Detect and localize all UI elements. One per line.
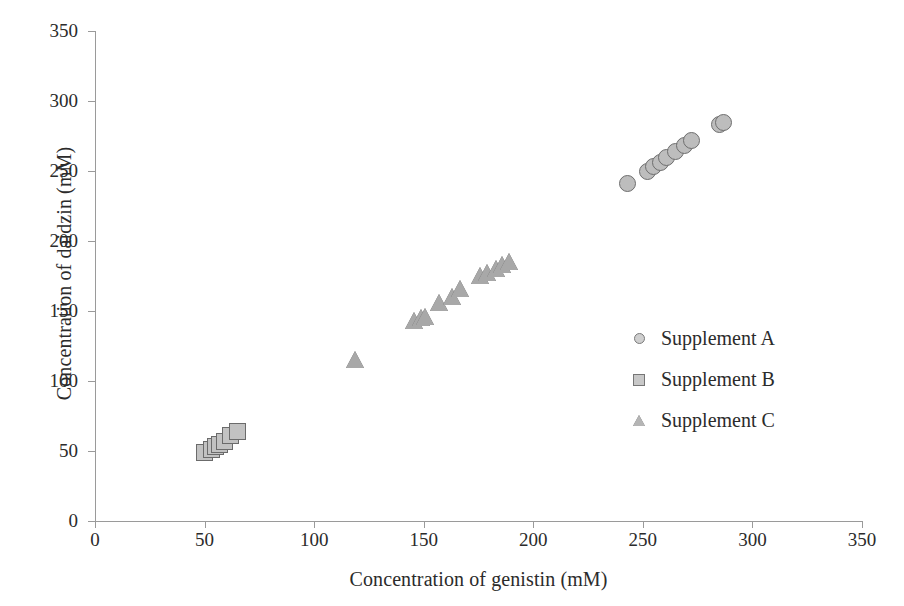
- y-tick: [88, 101, 95, 102]
- data-point-triangle[interactable]: [346, 351, 364, 368]
- y-tick: [88, 381, 95, 382]
- x-tick: [752, 521, 753, 528]
- x-tick-label: 350: [822, 530, 902, 549]
- y-tick-label: 350: [0, 21, 78, 40]
- y-tick-label: 50: [0, 441, 78, 460]
- x-tick: [643, 521, 644, 528]
- x-tick: [533, 521, 534, 528]
- x-tick-label: 50: [165, 530, 245, 549]
- data-point-square[interactable]: [229, 423, 246, 440]
- legend-label: Supplement B: [661, 368, 775, 391]
- legend-item-supplement-b[interactable]: Supplement B: [628, 359, 775, 400]
- chart-legend: Supplement A Supplement B Supplement C: [628, 318, 775, 441]
- x-tick: [862, 521, 863, 528]
- scatter-chart-figure: Concentration of daidzin (mM) 0501001502…: [0, 0, 904, 606]
- y-tick-label: 100: [0, 371, 78, 390]
- plot-area: [0, 0, 904, 606]
- triangle-marker-icon: [628, 415, 650, 426]
- data-point-circle[interactable]: [683, 132, 700, 149]
- circle-marker-icon: [628, 333, 650, 344]
- legend-item-supplement-a[interactable]: Supplement A: [628, 318, 775, 359]
- x-axis-line: [95, 521, 863, 522]
- data-point-triangle[interactable]: [500, 253, 518, 270]
- y-tick-label: 0: [0, 511, 78, 530]
- y-tick: [88, 451, 95, 452]
- y-tick: [88, 241, 95, 242]
- y-tick: [88, 31, 95, 32]
- legend-item-supplement-c[interactable]: Supplement C: [628, 400, 775, 441]
- y-tick-label: 200: [0, 231, 78, 250]
- legend-label: Supplement C: [661, 409, 775, 432]
- y-tick: [88, 311, 95, 312]
- square-marker-icon: [628, 374, 650, 386]
- x-tick: [424, 521, 425, 528]
- y-tick: [88, 171, 95, 172]
- x-tick-label: 300: [712, 530, 792, 549]
- data-point-circle[interactable]: [619, 175, 636, 192]
- y-axis-line: [95, 31, 96, 522]
- x-tick-label: 250: [603, 530, 683, 549]
- y-tick-label: 300: [0, 91, 78, 110]
- x-tick: [314, 521, 315, 528]
- x-tick-label: 0: [55, 530, 135, 549]
- x-tick-label: 100: [274, 530, 354, 549]
- x-tick-label: 200: [493, 530, 573, 549]
- y-tick: [88, 521, 95, 522]
- legend-label: Supplement A: [661, 327, 775, 350]
- data-point-circle[interactable]: [715, 114, 732, 131]
- x-tick-label: 150: [384, 530, 464, 549]
- x-axis-title: Concentration of genistin (mM): [95, 568, 862, 591]
- data-point-triangle[interactable]: [451, 280, 469, 297]
- y-tick-label: 250: [0, 161, 78, 180]
- y-tick-label: 150: [0, 301, 78, 320]
- x-tick: [95, 521, 96, 528]
- x-tick: [205, 521, 206, 528]
